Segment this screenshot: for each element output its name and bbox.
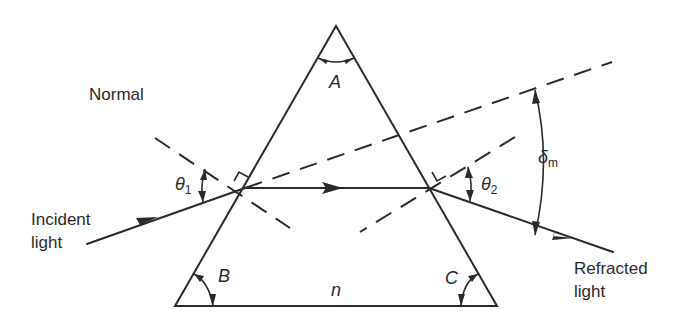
incident-ray: [87, 188, 245, 244]
angle-b-arrow-icon: [209, 294, 216, 306]
delta-m-label: δm: [538, 147, 558, 170]
refracted-light-label-line2: light: [574, 282, 605, 301]
theta1-label: θ1: [175, 174, 192, 197]
incident-light-label-line2: light: [31, 233, 62, 252]
right-angle-marker-right: [432, 172, 446, 181]
prism-triangle: [175, 26, 497, 306]
theta1-symbol: θ: [175, 174, 185, 194]
theta2-symbol: θ: [481, 174, 491, 194]
right-angle-marker-left: [234, 172, 248, 181]
refracted-light-label-line1: Refracted: [574, 259, 648, 278]
theta2-arrow-down-icon: [466, 190, 474, 201]
theta2-subscript: 2: [491, 183, 498, 197]
delta-subscript: m: [548, 156, 558, 170]
normal-label: Normal: [89, 85, 144, 104]
refractive-index-label: n: [331, 280, 341, 300]
angle-c-arrow-icon: [458, 294, 465, 306]
refracted-ray: [429, 188, 613, 252]
angle-a-arrow-left-icon: [318, 58, 328, 64]
angle-b-label: B: [218, 266, 230, 286]
angle-b-arc: [194, 274, 213, 306]
prism-refraction-diagram: Normal Incident light Refracted light A …: [0, 0, 698, 328]
incident-light-label-line1: Incident: [31, 210, 91, 229]
angle-c-arc: [461, 274, 478, 306]
apex-angle-label: A: [328, 72, 341, 92]
angle-a-arrow-right-icon: [344, 58, 354, 64]
theta2-label: θ2: [481, 174, 498, 197]
angle-c-label: C: [445, 268, 459, 288]
theta1-subscript: 1: [185, 183, 192, 197]
